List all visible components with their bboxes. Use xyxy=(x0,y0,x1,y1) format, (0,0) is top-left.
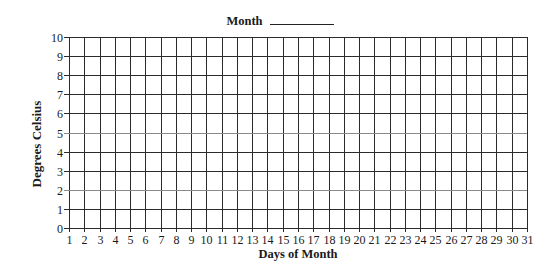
x-tick-label: 19 xyxy=(339,233,351,247)
x-tick-label: 5 xyxy=(128,233,134,247)
x-tick-label: 28 xyxy=(476,233,488,247)
x-tick-label: 1 xyxy=(67,233,73,247)
x-tick-label: 16 xyxy=(293,233,305,247)
x-tick-label: 26 xyxy=(446,233,458,247)
x-tick-label: 31 xyxy=(522,233,534,247)
y-tick-label: 8 xyxy=(57,69,63,83)
x-tick-label: 20 xyxy=(354,233,366,247)
x-tick-label: 7 xyxy=(159,233,165,247)
x-tick-label: 17 xyxy=(308,233,320,247)
y-axis-label: Degrees Celsius xyxy=(29,101,45,188)
x-tick-label: 13 xyxy=(247,233,259,247)
y-tick-label: 3 xyxy=(57,165,63,179)
x-tick-label: 24 xyxy=(415,233,427,247)
x-tick-label: 29 xyxy=(491,233,503,247)
plot-area: 1234567891011121314151617181920212223242… xyxy=(0,0,560,277)
x-tick-label: 25 xyxy=(430,233,442,247)
x-tick-label: 3 xyxy=(98,233,104,247)
x-tick-label: 22 xyxy=(385,233,397,247)
x-tick-label: 14 xyxy=(262,233,274,247)
y-tick-label: 10 xyxy=(51,31,63,45)
y-tick-label: 0 xyxy=(57,222,63,236)
x-tick-label: 11 xyxy=(217,233,229,247)
x-tick-label: 21 xyxy=(369,233,381,247)
x-tick-label: 6 xyxy=(143,233,149,247)
x-tick-label: 23 xyxy=(400,233,412,247)
x-tick-label: 15 xyxy=(278,233,290,247)
x-tick-label: 4 xyxy=(113,233,119,247)
y-tick-label: 5 xyxy=(57,127,63,141)
y-tick-label: 4 xyxy=(57,146,63,160)
x-tick-label: 8 xyxy=(174,233,180,247)
y-tick-label: 9 xyxy=(57,50,63,64)
x-tick-label: 27 xyxy=(461,233,473,247)
x-tick-label: 2 xyxy=(82,233,88,247)
y-tick-label: 6 xyxy=(57,107,63,121)
x-tick-label: 10 xyxy=(201,233,213,247)
x-tick-label: 9 xyxy=(189,233,195,247)
x-axis-label: Days of Month xyxy=(69,247,527,262)
y-tick-label: 1 xyxy=(57,203,63,217)
y-tick-label: 7 xyxy=(57,88,63,102)
x-tick-label: 30 xyxy=(507,233,519,247)
y-tick-label: 2 xyxy=(57,184,63,198)
x-tick-label: 18 xyxy=(324,233,336,247)
x-tick-label: 12 xyxy=(232,233,244,247)
